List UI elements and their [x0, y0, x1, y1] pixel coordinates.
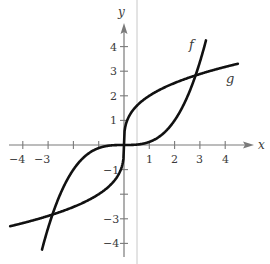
function-graph: −4 −3 1 2 3 4 4 3 2 1 −1 −3 −4 x y f g	[0, 0, 270, 264]
x-tick-label: 2	[171, 153, 178, 166]
y-tick-label: 3	[110, 65, 117, 78]
y-tick-label: 2	[110, 90, 117, 103]
x-axis-label: x	[258, 138, 265, 152]
y-tick-label: −4	[103, 237, 119, 250]
x-tick-label: 3	[196, 153, 203, 166]
x-tick-label: −3	[34, 153, 50, 166]
x-tick-label: 4	[222, 153, 229, 166]
curve-label-f: f	[188, 37, 196, 52]
y-tick-label: 4	[110, 41, 117, 54]
x-tick-label: 1	[146, 153, 153, 166]
y-tick-label: −3	[103, 213, 119, 226]
x-tick-label: −4	[9, 153, 25, 166]
y-axis-label: y	[117, 5, 125, 19]
y-tick-label: 1	[110, 114, 117, 127]
curve-label-g: g	[226, 71, 234, 86]
